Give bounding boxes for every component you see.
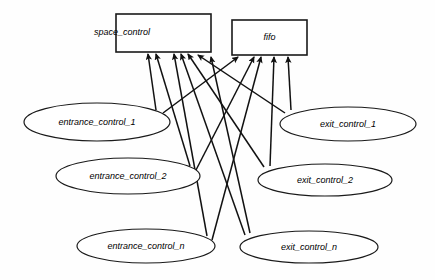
node-ellipse-exit_control_n[interactable]: exit_control_n: [240, 231, 378, 263]
node-ellipse-entrance_control_n[interactable]: entrance_control_n: [77, 229, 215, 263]
edges-layer: [148, 54, 291, 240]
node-box-space_control[interactable]: space_control: [94, 14, 211, 52]
diagram-svg: space_controlfifoentrance_control_1entra…: [0, 0, 435, 280]
ellipse-label-entrance_control_n: entrance_control_n: [107, 241, 184, 251]
diagram-canvas: space_controlfifoentrance_control_1entra…: [0, 0, 435, 280]
node-ellipse-exit_control_1[interactable]: exit_control_1: [280, 107, 416, 141]
edge-exit_control_n-to-fifo: [211, 57, 250, 233]
ellipse-label-exit_control_n: exit_control_n: [281, 242, 337, 252]
ellipse-label-entrance_control_1: entrance_control_1: [58, 117, 135, 127]
box-label-space_control: space_control: [94, 27, 151, 37]
edge-exit_control_2-to-fifo: [270, 57, 274, 166]
edge-exit_control_2-to-space_control: [188, 54, 264, 167]
ellipse-label-exit_control_2: exit_control_2: [297, 175, 353, 185]
edge-exit_control_1-to-fifo: [288, 57, 291, 110]
node-ellipse-exit_control_2[interactable]: exit_control_2: [258, 164, 392, 196]
box-label-fifo: fifo: [263, 32, 275, 42]
node-ellipse-entrance_control_2[interactable]: entrance_control_2: [56, 158, 200, 194]
ellipse-label-entrance_control_2: entrance_control_2: [89, 171, 166, 181]
nodes-layer: space_controlfifoentrance_control_1entra…: [24, 14, 416, 263]
node-box-fifo[interactable]: fifo: [232, 20, 307, 55]
ellipse-label-exit_control_1: exit_control_1: [320, 119, 376, 129]
edge-entrance_control_1-to-fifo: [163, 57, 238, 113]
edge-entrance_control_1-to-space_control: [148, 54, 156, 110]
node-ellipse-entrance_control_1[interactable]: entrance_control_1: [24, 103, 170, 141]
